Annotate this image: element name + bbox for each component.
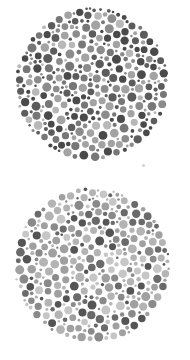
stray-speck [142,164,145,167]
dot-plate-top [13,5,171,163]
dot-plate-bottom [12,185,172,345]
